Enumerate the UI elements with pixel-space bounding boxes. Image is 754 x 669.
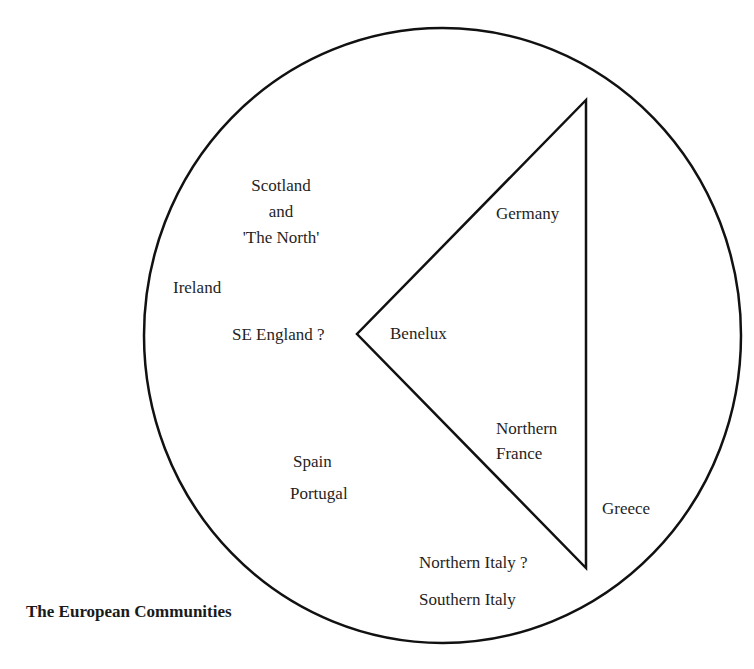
label-portugal: Portugal [290, 481, 348, 507]
diagram-title: The European Communities [26, 601, 232, 623]
label-greece: Greece [602, 496, 650, 522]
label-scotland: Scotland and 'The North' [221, 173, 341, 251]
label-northern-italy: Northern Italy ? [419, 550, 528, 576]
label-scotland-line-2: and [221, 199, 341, 225]
label-germany: Germany [496, 201, 559, 227]
label-se-england: SE England ? [232, 322, 325, 348]
label-northern-france-line-2: France [496, 441, 557, 466]
label-southern-italy: Southern Italy [419, 587, 516, 613]
label-benelux: Benelux [390, 321, 447, 347]
label-spain: Spain [293, 449, 332, 475]
label-ireland: Ireland [173, 275, 221, 301]
label-scotland-line-3: 'The North' [221, 225, 341, 251]
label-northern-france-line-1: Northern [496, 416, 557, 441]
diagram-canvas [0, 0, 754, 669]
label-scotland-line-1: Scotland [221, 173, 341, 199]
label-northern-france: Northern France [496, 416, 557, 466]
